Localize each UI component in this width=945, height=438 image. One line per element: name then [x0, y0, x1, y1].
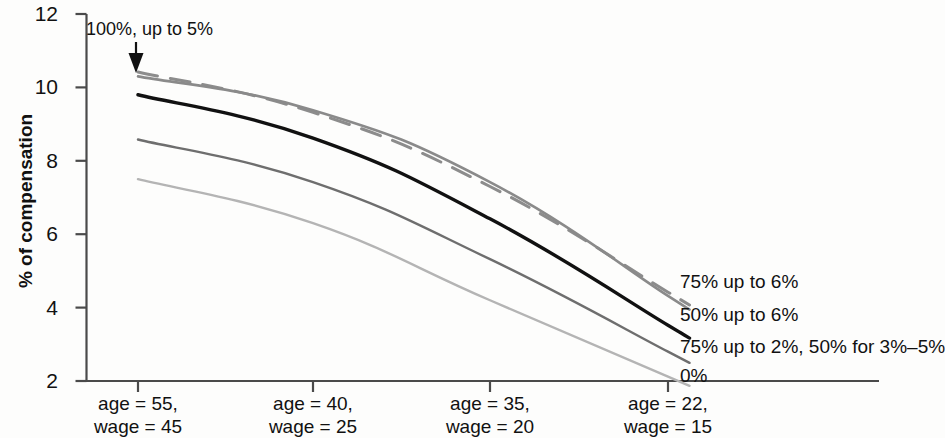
x-axis-tick-label-line: wage = 25: [223, 415, 403, 438]
y-axis-tick-label: 8: [12, 150, 58, 171]
series-label-75-up-to-6: 75% up to 6%: [680, 272, 798, 291]
x-axis-tick-label: age = 40,wage = 25: [223, 392, 403, 438]
series-label-75-up-to-2-50-for-3-5: 75% up to 2%, 50% for 3%–5%: [680, 337, 945, 356]
x-axis-tick-label: age = 22,wage = 15: [578, 392, 758, 438]
chart-series-line: [138, 95, 690, 338]
chart-series-line: [138, 72, 690, 305]
y-axis-tick-label: 4: [12, 297, 58, 318]
x-axis-tick-label-line: wage = 20: [400, 415, 580, 438]
x-axis-tick-label-line: wage = 15: [578, 415, 758, 438]
y-axis-tick-label: 6: [12, 223, 58, 244]
y-axis-tick-label: 10: [12, 76, 58, 97]
y-axis-title: % of compensation: [15, 71, 37, 331]
x-axis-tick-label-line: age = 22,: [578, 392, 758, 415]
x-axis-ticks: [138, 381, 668, 392]
x-axis-tick-label-line: wage = 45: [48, 415, 228, 438]
chart-series-line: [138, 179, 690, 386]
chart-series-line: [138, 140, 690, 363]
y-axis-tick-label: 2: [12, 370, 58, 391]
x-axis-tick-label-line: age = 35,: [400, 392, 580, 415]
chart-series-group: [138, 72, 690, 386]
x-axis-tick-label-line: age = 55,: [48, 392, 228, 415]
y-axis-ticks: [76, 14, 87, 381]
series-label-50-up-to-6: 50% up to 6%: [680, 305, 798, 324]
annotation-arrow-head: [129, 53, 144, 73]
series-label-0-percent: 0%: [680, 366, 707, 385]
x-axis-tick-label: age = 35,wage = 20: [400, 392, 580, 438]
y-axis-tick-label: 12: [12, 3, 58, 24]
annotation-arrow: [129, 42, 144, 73]
x-axis-tick-label-line: age = 40,: [223, 392, 403, 415]
annotation-text-100-up-to-5: 100%, up to 5%: [86, 20, 213, 38]
x-axis-tick-label: age = 55,wage = 45: [48, 392, 228, 438]
